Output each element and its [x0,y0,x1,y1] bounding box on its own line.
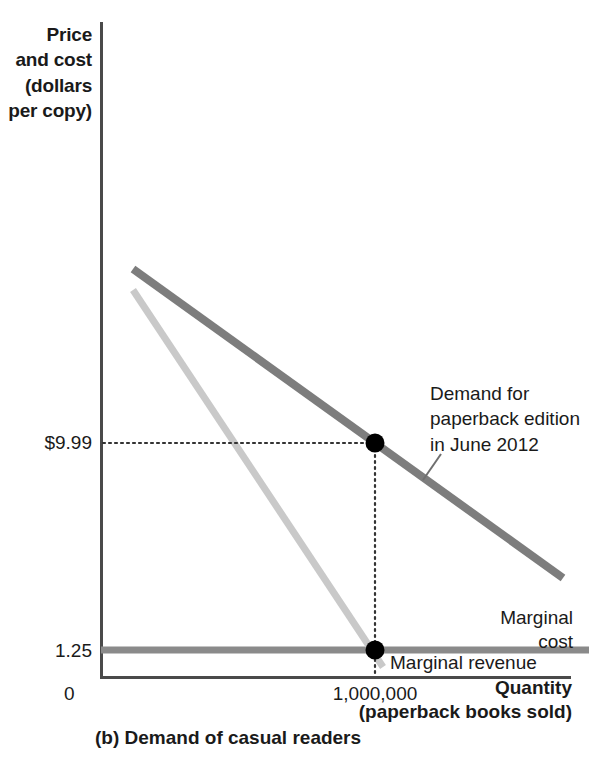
figure-caption: (b) Demand of casual readers [95,726,361,749]
y-axis-title: Price and cost (dollars per copy) [0,22,92,123]
demand-curve-annotation: Demand for paperback edition in June 201… [430,381,589,457]
y-tick-label-price: $9.99 [0,431,92,454]
marginal-revenue-line [133,290,383,667]
economics-figure: Price and cost (dollars per copy) $9.99 … [0,0,589,759]
marginal-revenue-label: Marginal revenue [390,651,537,674]
y-tick-label-cost: 1.25 [0,639,92,662]
demand-annotation-leader-line [423,454,441,480]
x-axis-title: Quantity (paperback books sold) [229,676,572,725]
marginal-cost-label: Marginal cost [380,606,573,654]
price-quantity-point-marker [366,434,385,453]
origin-label: 0 [64,682,75,705]
